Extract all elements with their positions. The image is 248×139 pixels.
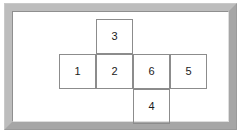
net-cell-6: 6 <box>133 54 170 89</box>
net-cell-label: 1 <box>74 66 80 77</box>
frame-inner-canvas: 312654 <box>12 11 229 122</box>
net-cell-label: 2 <box>111 66 117 77</box>
net-cell-2: 2 <box>96 54 133 89</box>
net-cell-3: 3 <box>96 19 133 54</box>
net-cell-label: 6 <box>148 66 154 77</box>
net-cell-5: 5 <box>170 54 207 89</box>
net-cell-1: 1 <box>59 54 96 89</box>
cube-net-diagram: 312654 <box>13 12 246 139</box>
net-cell-label: 5 <box>185 66 191 77</box>
net-cell-label: 4 <box>148 101 154 112</box>
net-cell-label: 3 <box>111 31 117 42</box>
picture-frame: 312654 <box>4 3 237 130</box>
net-cell-4: 4 <box>133 89 170 124</box>
